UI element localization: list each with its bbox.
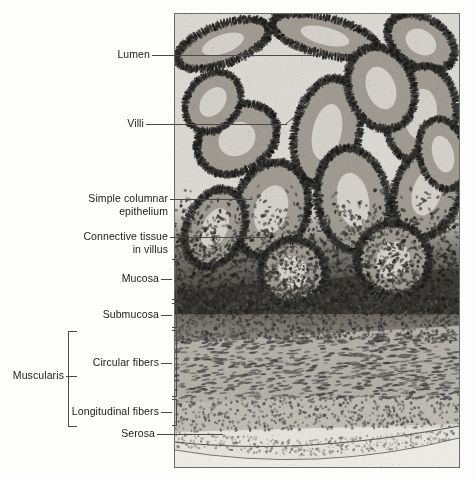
label-villi: Villi (40, 117, 144, 130)
label-simple-columnar-epithelium: Simple columnar epithelium (20, 192, 168, 218)
bracket-longitudinal-fibers (172, 399, 177, 426)
leader-line-simple-columnar (170, 199, 252, 200)
leader-line-serosa (157, 434, 223, 435)
label-serosa: Serosa (55, 427, 155, 440)
leader-line-villi (146, 124, 287, 125)
label-mucosa: Mucosa (55, 272, 159, 285)
label-lumen: Lumen (40, 48, 150, 61)
leader-line-villi-diagonal (286, 100, 316, 128)
leader-line-circular-fibers (161, 363, 172, 364)
label-circular-fibers: Circular fibers (40, 356, 159, 369)
label-longitudinal-fibers: Longitudinal fibers (30, 405, 159, 418)
bracket-mucosa (172, 259, 177, 300)
leader-line-lumen (152, 55, 324, 56)
micrograph-canvas (175, 14, 459, 467)
figure-small-intestine-histology: Lumen Villi Simple columnar epithelium C… (0, 0, 475, 479)
label-submucosa: Submucosa (45, 308, 159, 321)
bracket-circular-fibers (172, 330, 177, 397)
bracket-submucosa (172, 303, 177, 328)
label-muscularis: Muscularis (0, 369, 64, 382)
micrograph-image (174, 13, 460, 468)
leader-line-connective-tissue (170, 237, 266, 238)
label-connective-tissue-in-villus: Connective tissue in villus (20, 230, 168, 256)
leader-line-mucosa (161, 279, 172, 280)
leader-line-longitudinal-fibers (161, 412, 172, 413)
leader-line-submucosa (161, 315, 172, 316)
